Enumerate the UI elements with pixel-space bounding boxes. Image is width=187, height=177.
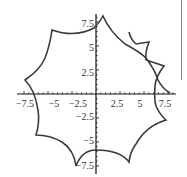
y-tick-label: −5: [83, 135, 94, 146]
y-tick-label: −7.5: [76, 160, 94, 171]
y-tick-label: 2.5: [82, 67, 95, 78]
plot-area: −7.5 −5 −2.5 2.5 5 7.5 7.5 5 2.5 −2.5 −5…: [0, 0, 187, 177]
y-tick-label: 7.5: [82, 18, 95, 29]
x-tick-label: −5: [49, 98, 60, 109]
x-tick-labels: −7.5 −5 −2.5 2.5 5 7.5: [16, 98, 171, 109]
y-tick-label: −2.5: [76, 111, 94, 122]
y-tick-label: 5: [89, 42, 94, 53]
axis-ticks: [24, 17, 173, 166]
x-tick-label: 5: [138, 98, 143, 109]
vertical-divider: [181, 0, 182, 80]
x-tick-label: 2.5: [111, 98, 124, 109]
parametric-curve: [25, 16, 170, 166]
x-tick-label: 7.5: [159, 98, 172, 109]
x-tick-label: −7.5: [16, 98, 34, 109]
x-tick-label: −2.5: [69, 98, 87, 109]
